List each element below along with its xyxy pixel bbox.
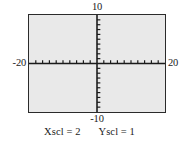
xscl-caption: Xscl = 2 — [44, 125, 80, 138]
axes-and-ticks — [29, 15, 165, 112]
scale-captions: Xscl = 2 Yscl = 1 — [0, 125, 179, 141]
plot-area — [29, 15, 165, 112]
plot-frame — [28, 14, 166, 113]
graphing-window: 10 -10 -20 20 Xscl = 2 Yscl = 1 — [0, 0, 179, 143]
x-axis-max-label: 20 — [168, 57, 178, 68]
y-axis-min-label: -10 — [28, 113, 166, 124]
x-axis-min-label: -20 — [13, 57, 26, 68]
y-axis-max-label: 10 — [28, 1, 166, 12]
yscl-caption: Yscl = 1 — [99, 125, 135, 138]
